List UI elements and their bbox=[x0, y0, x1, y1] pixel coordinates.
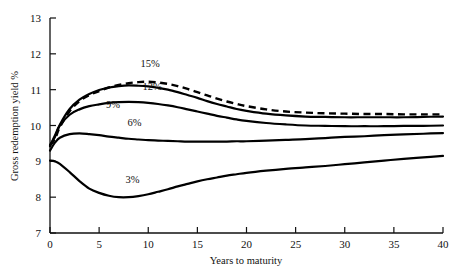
y-tick-label: 10 bbox=[30, 120, 42, 132]
x-axis: 0510152025303540 Years to maturity bbox=[47, 227, 449, 266]
series-curve-3pct bbox=[50, 156, 443, 197]
y-tick-label: 8 bbox=[36, 191, 42, 203]
y-tick-group bbox=[50, 18, 56, 233]
x-axis-title: Years to maturity bbox=[210, 255, 283, 266]
x-tick-group bbox=[50, 227, 443, 233]
y-tick-label: 12 bbox=[30, 48, 41, 60]
y-axis: 78910111213 Gross redemption yield % bbox=[9, 12, 56, 239]
y-tick-label: 11 bbox=[30, 84, 41, 96]
series-curve-6pct bbox=[50, 133, 443, 151]
series-label-9pct: 9% bbox=[106, 99, 120, 110]
chart-page: 78910111213 Gross redemption yield % 051… bbox=[0, 0, 460, 277]
x-tick-label: 20 bbox=[241, 238, 253, 250]
x-tick-label: 0 bbox=[47, 238, 53, 250]
y-tick-label: 9 bbox=[36, 155, 42, 167]
y-axis-title: Gross redemption yield % bbox=[9, 71, 20, 181]
x-tick-label: 40 bbox=[438, 238, 450, 250]
x-tick-label: 5 bbox=[96, 238, 102, 250]
y-tick-label: 13 bbox=[30, 12, 42, 24]
series-label-15pct: 15% bbox=[141, 58, 161, 69]
x-tick-label: 35 bbox=[388, 238, 400, 250]
x-tick-label: 10 bbox=[143, 238, 155, 250]
series-label-6pct: 6% bbox=[127, 117, 141, 128]
series-annotation-group: 15%12%9%6%3% bbox=[106, 58, 162, 184]
y-tick-label: 7 bbox=[36, 227, 42, 239]
x-tick-label: 30 bbox=[339, 238, 351, 250]
x-tick-label: 25 bbox=[290, 238, 302, 250]
series-label-12pct: 12% bbox=[143, 81, 163, 92]
x-tick-label: 15 bbox=[192, 238, 204, 250]
series-label-3pct: 3% bbox=[126, 174, 140, 185]
y-tick-label-group: 78910111213 bbox=[30, 12, 42, 239]
x-tick-label-group: 0510152025303540 bbox=[47, 238, 449, 250]
yield-curve-chart: 78910111213 Gross redemption yield % 051… bbox=[0, 0, 460, 277]
